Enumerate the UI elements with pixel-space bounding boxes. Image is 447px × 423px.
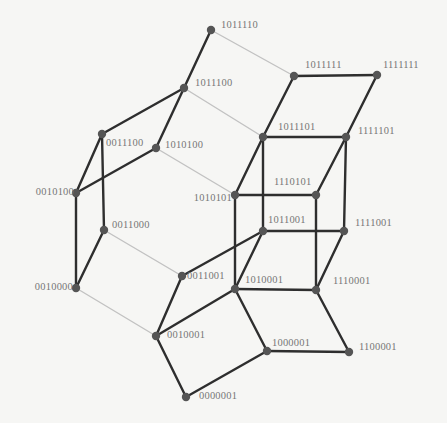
node-1010100 (152, 144, 160, 152)
hypercube-graph (0, 0, 447, 423)
node-label: 1011110 (221, 20, 258, 31)
node-label: 1010100 (165, 140, 203, 151)
node-1110001 (312, 286, 320, 294)
edge-1111101-1111001 (344, 137, 346, 231)
node-label: 0000001 (199, 391, 237, 402)
node-1011101 (259, 133, 267, 141)
edge-0011100-0010100 (76, 134, 102, 193)
node-label: 0010100 (36, 187, 74, 198)
node-label: 0010000 (35, 282, 73, 293)
node-label: 1010101 (194, 193, 232, 204)
edge-1000001-1100001 (267, 351, 349, 352)
edge-1110001-1100001 (316, 290, 349, 352)
node-1111001 (340, 227, 348, 235)
node-label: 0011100 (106, 138, 143, 149)
node-0011001 (178, 272, 186, 280)
edge-1010100-0010100 (76, 148, 156, 193)
node-label: 0011001 (187, 271, 225, 282)
node-1011110 (207, 26, 215, 34)
node-0011000 (100, 226, 108, 234)
node-1011001 (259, 227, 267, 235)
edge-1011100-0011100 (102, 88, 184, 134)
edge-0011000-0010000 (76, 230, 104, 288)
node-1010001 (231, 285, 239, 293)
node-label: 1110101 (274, 177, 311, 188)
node-1000001 (263, 347, 271, 355)
edge-1010100-1010101 (156, 148, 235, 195)
node-0010000 (72, 284, 80, 292)
node-0000001 (182, 393, 190, 401)
edge-1011100-1011101 (184, 88, 263, 137)
edge-0011100-0011000 (102, 134, 104, 230)
edge-1010001-1000001 (235, 289, 267, 351)
node-label: 0010001 (167, 330, 205, 341)
edge-1011101-1010101 (235, 137, 263, 195)
node-label: 1100001 (359, 342, 397, 353)
node-label: 1111111 (383, 60, 419, 71)
node-label: 1010001 (245, 275, 283, 286)
node-label: 1110001 (333, 276, 370, 287)
node-0010001 (152, 332, 160, 340)
node-1011111 (290, 72, 298, 80)
node-label: 0011000 (112, 220, 150, 231)
node-label: 1011001 (268, 215, 306, 226)
node-1100001 (345, 348, 353, 356)
node-1010101 (231, 191, 239, 199)
node-label: 1000001 (272, 338, 310, 349)
edge-0011000-0011001 (104, 230, 182, 276)
edge-1010001-1110001 (235, 289, 316, 290)
node-1110101 (312, 191, 320, 199)
edge-1011110-1011111 (211, 30, 294, 76)
node-1111111 (373, 71, 381, 79)
edge-1011111-1111111 (294, 75, 377, 76)
node-0011100 (98, 130, 106, 138)
node-label: 1011100 (195, 78, 232, 89)
node-label: 1111001 (355, 218, 392, 229)
edge-0010001-0000001 (156, 336, 186, 397)
edge-0010000-0010001 (76, 288, 156, 336)
edge-1111101-1110101 (316, 137, 346, 195)
node-label: 1011101 (278, 122, 315, 133)
node-label: 1011111 (305, 60, 342, 71)
node-1111101 (342, 133, 350, 141)
node-1011100 (180, 84, 188, 92)
node-label: 1111101 (358, 126, 395, 137)
